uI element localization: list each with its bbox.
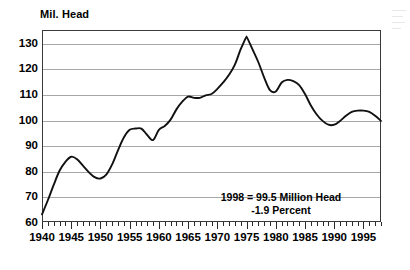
x-axis-major-tick [130,222,131,229]
x-axis-minor-tick [346,222,347,226]
x-axis-minor-tick [112,222,113,226]
x-axis-minor-tick [299,222,300,226]
x-axis-tick-label: 1960 [146,231,172,243]
x-axis-minor-tick [89,222,90,226]
x-axis-minor-tick [147,222,148,226]
annotation-box: 1998 = 99.5 Million Head -1.9 Percent [205,191,357,218]
x-axis-minor-tick [176,222,177,226]
series-path [42,36,381,214]
x-axis-tick-label: 1970 [205,231,231,243]
x-axis-minor-tick [381,222,382,226]
x-axis-tick-label: 1995 [351,231,377,243]
x-axis-major-tick [100,222,101,229]
x-axis-major-tick [334,222,335,229]
x-axis-tick-label: 1940 [29,231,55,243]
x-axis-minor-tick [77,222,78,226]
x-axis-minor-tick [235,222,236,226]
y-axis-tick-label: 90 [25,139,38,151]
x-axis-minor-tick [182,222,183,226]
annotation-line-1: 1998 = 99.5 Million Head [205,191,357,204]
x-axis-major-tick [363,222,364,229]
x-axis-minor-tick [48,222,49,226]
x-axis-minor-tick [340,222,341,226]
x-axis-minor-tick [141,222,142,226]
x-axis-tick-label: 1965 [175,231,201,243]
x-axis-tick-label: 1990 [321,231,347,243]
x-axis-tick-label: 1945 [58,231,84,243]
y-axis-tick-label: 110 [19,88,38,100]
x-axis-minor-tick [171,222,172,226]
x-axis-major-tick [217,222,218,229]
x-axis-minor-tick [317,222,318,226]
x-axis-minor-tick [311,222,312,226]
x-axis-minor-tick [258,222,259,226]
y-axis-tick-label: 100 [19,114,38,126]
x-axis-minor-tick [118,222,119,226]
annotation-line-2: -1.9 Percent [205,204,357,217]
y-axis-tick-label: 80 [25,165,38,177]
x-axis-minor-tick [65,222,66,226]
x-axis-minor-tick [95,222,96,226]
x-axis-minor-tick [323,222,324,226]
x-axis-minor-tick [270,222,271,226]
x-axis-minor-tick [264,222,265,226]
x-axis-minor-tick [328,222,329,226]
x-axis-major-tick [71,222,72,229]
x-axis-tick-label: 1955 [117,231,143,243]
x-axis-minor-tick [200,222,201,226]
y-axis-tick-label: 60 [25,216,38,228]
x-axis-minor-tick [60,222,61,226]
y-axis-tick-label: 130 [19,37,38,49]
x-axis-minor-tick [369,222,370,226]
x-axis-major-tick [276,222,277,229]
x-axis-minor-tick [229,222,230,226]
y-axis-tick-label: 70 [25,190,38,202]
x-axis-major-tick [247,222,248,229]
x-axis-minor-tick [358,222,359,226]
x-axis-minor-tick [252,222,253,226]
x-axis-minor-tick [282,222,283,226]
x-axis-major-tick [159,222,160,229]
chart-container: Mil. Head 60708090100110120130 194019451… [0,0,410,270]
x-axis-minor-tick [153,222,154,226]
x-axis-minor-tick [194,222,195,226]
x-axis-major-tick [305,222,306,229]
x-axis-minor-tick [352,222,353,226]
x-axis-minor-tick [241,222,242,226]
x-axis-labels: 1940194519501955196019651970197519801985… [0,231,410,251]
y-axis-tick-label: 120 [19,62,38,74]
x-axis-minor-tick [287,222,288,226]
x-axis-ticks [42,222,381,229]
x-axis-minor-tick [106,222,107,226]
cropped-edge-artifact [392,10,408,36]
x-axis-minor-tick [124,222,125,226]
x-axis-minor-tick [212,222,213,226]
x-axis-minor-tick [165,222,166,226]
x-axis-tick-label: 1980 [263,231,289,243]
x-axis-minor-tick [136,222,137,226]
x-axis-minor-tick [375,222,376,226]
x-axis-major-tick [188,222,189,229]
x-axis-tick-label: 1975 [234,231,260,243]
y-axis-title: Mil. Head [40,8,89,20]
x-axis-minor-tick [293,222,294,226]
x-axis-major-tick [42,222,43,229]
y-axis-labels: 60708090100110120130 [0,30,38,222]
x-axis-tick-label: 1985 [292,231,318,243]
x-axis-minor-tick [54,222,55,226]
x-axis-minor-tick [206,222,207,226]
x-axis-minor-tick [223,222,224,226]
x-axis-minor-tick [83,222,84,226]
x-axis-tick-label: 1950 [88,231,114,243]
